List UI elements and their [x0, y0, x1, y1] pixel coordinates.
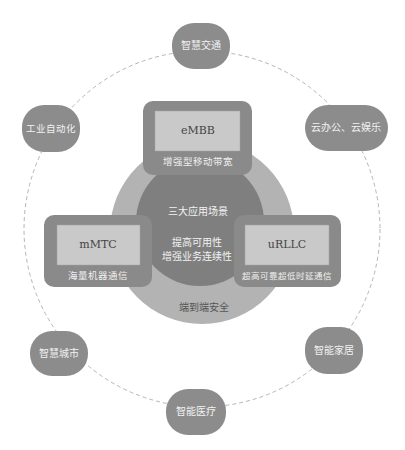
application-label: 工业自动化: [26, 123, 76, 134]
scenario-description: 增强型移动带宽: [163, 156, 233, 167]
application-label: 云办公、云娱乐: [311, 121, 381, 133]
application-label: 智慧城市: [39, 347, 79, 359]
scenario-name: uRLLC: [268, 238, 306, 251]
application-label: 智能医疗: [176, 405, 216, 417]
application-label: 智能家居: [314, 344, 354, 356]
application-label: 智慧交通: [181, 39, 221, 51]
application-node-top-left: 工业自动化: [22, 105, 80, 152]
end-to-end-security-label: 端到端安全: [179, 301, 229, 313]
center-line-2: 增强业务连续性: [162, 250, 232, 262]
scenario-box-urllc: uRLLC 超高可靠超低时延通信: [234, 215, 341, 287]
scenario-description: 超高可靠超低时延通信: [242, 271, 332, 281]
5g-scenarios-diagram: 三大应用场景 提高可用性 增强业务连续性 端到端安全 eMBB 增强型移动带宽 …: [0, 0, 405, 450]
scenario-box-mmtc: mMTC 海量机器通信: [44, 215, 152, 287]
center-title: 三大应用场景: [168, 205, 228, 217]
application-node-bottom: 智能医疗: [166, 389, 226, 435]
scenario-description: 海量机器通信: [68, 270, 128, 281]
scenario-name: mMTC: [79, 238, 116, 251]
application-node-top: 智慧交通: [172, 23, 230, 69]
scenario-name: eMBB: [181, 124, 215, 137]
application-node-top-right: 云办公、云娱乐: [305, 105, 388, 151]
application-node-bottom-right: 智能家居: [305, 327, 363, 374]
scenario-box-embb: eMBB 增强型移动带宽: [143, 101, 252, 175]
application-node-bottom-left: 智慧城市: [30, 331, 88, 376]
center-line-1: 提高可用性: [172, 236, 222, 248]
